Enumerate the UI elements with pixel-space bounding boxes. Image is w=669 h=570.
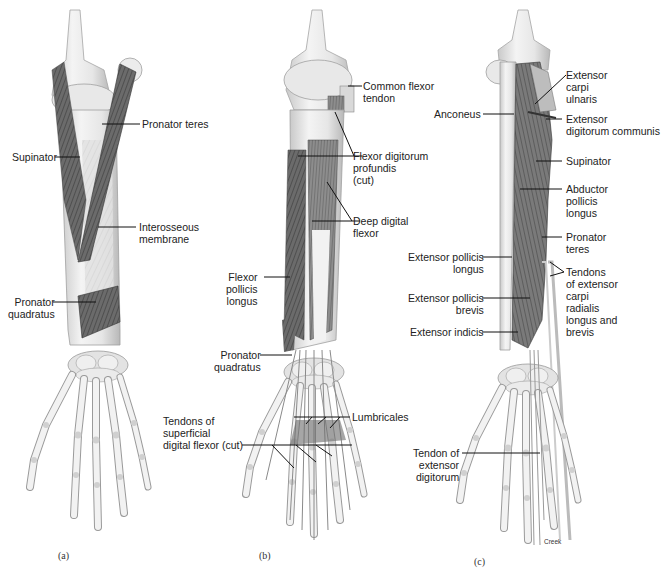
panel-a: [30, 10, 148, 527]
label-flexor-digitorum-profundis: Flexor digitorum profundis (cut): [353, 150, 428, 186]
label-supinator-a: Supinator: [12, 151, 57, 163]
label-pronator-teres-a: Pronator teres: [142, 118, 209, 130]
label-pronator-teres-c: Pronator teres: [566, 231, 606, 255]
label-interosseous-membrane: Interosseous membrane: [139, 221, 199, 245]
label-pronator-quadratus-a: Pronator quadratus: [8, 296, 55, 320]
label-extensor-indicis: Extensor indicis: [410, 326, 484, 338]
panel-letter-b: (b): [259, 550, 271, 561]
label-pronator-quadratus-b: Pronator quadratus: [214, 349, 261, 373]
panel-letter-c: (c): [474, 556, 485, 567]
artist-credit: Creek: [544, 538, 561, 545]
label-lumbricales: Lumbricales: [352, 411, 409, 423]
panel-b: [246, 10, 364, 540]
label-tendons-superficial-digital-flexor: Tendons of superficial digital flexor (c…: [163, 415, 243, 451]
label-tendon-extensor-digitorum: Tendon of extensor digitorum: [413, 447, 459, 483]
label-flexor-pollicis-longus: Flexor pollicis longus: [226, 271, 258, 307]
label-anconeus: Anconeus: [434, 108, 481, 120]
label-common-flexor-tendon: Common flexor tendon: [363, 80, 434, 104]
label-tendons-extensor-carpi-radialis: Tendons of extensor carpi radialis longu…: [566, 266, 618, 338]
label-extensor-digitorum-communis: Extensor digitorum communis: [566, 113, 660, 137]
label-abductor-pollicis-longus: Abductor pollicis longus: [566, 183, 608, 219]
label-extensor-pollicis-longus: Extensor pollicis longus: [408, 251, 484, 275]
label-extensor-pollicis-brevis: Extensor pollicis brevis: [408, 292, 484, 316]
label-extensor-carpi-ulnaris: Extensor carpi ulnaris: [566, 69, 607, 105]
label-deep-digital-flexor: Deep digital flexor: [353, 215, 408, 239]
panel-letter-a: (a): [58, 550, 69, 561]
label-supinator-c: Supinator: [566, 155, 611, 167]
panel-c: [460, 10, 578, 545]
